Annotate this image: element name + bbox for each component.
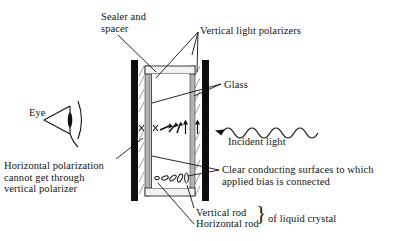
eye-cone xyxy=(44,106,70,134)
label-horizontal-polarization: Horizontal polarization cannot get throu… xyxy=(4,160,104,195)
label-of-liquid-crystal: of liquid crystal xyxy=(268,213,336,225)
eye-tail-stroke xyxy=(70,134,78,147)
sealer-spacer-top xyxy=(145,66,195,74)
label-clear-conducting-surfaces: Clear conducting surfaces to which appli… xyxy=(222,164,374,187)
label-sealer-spacer: Sealer and spacer xyxy=(101,11,146,34)
eye-symbol xyxy=(44,101,82,147)
incident-light-arrowhead xyxy=(215,130,224,136)
right-glass-plate xyxy=(190,66,195,196)
label-vertical-light-polarizers: Vertical light polarizers xyxy=(200,25,301,37)
sealer-spacer-bottom xyxy=(145,188,195,196)
right-vertical-polarizer xyxy=(202,60,209,201)
label-vertical-rod: Vertical rod xyxy=(196,207,246,219)
lcd-diagram-figure: Sealer and spacer Vertical light polariz… xyxy=(0,0,397,241)
label-horizontal-rod: Horizontal rod xyxy=(196,218,259,230)
diagram-canvas xyxy=(0,0,397,241)
left-vertical-polarizer xyxy=(131,60,138,201)
label-glass: Glass xyxy=(224,79,248,91)
left-glass-plate xyxy=(145,66,150,196)
label-eye: Eye xyxy=(29,107,46,119)
label-incident-light: Incident light xyxy=(228,136,286,148)
liquid-crystal-brace: } xyxy=(256,203,266,224)
eye-pupil xyxy=(68,113,73,128)
eye-outline-arc xyxy=(78,101,82,139)
